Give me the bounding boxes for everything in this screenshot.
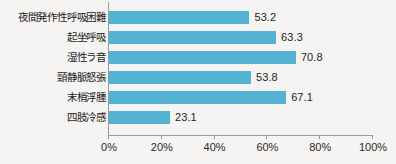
x-axis-tick-label: 40%: [190, 141, 240, 154]
category-label: 夜間発作性呼吸困難: [0, 11, 106, 24]
x-axis-tick: [372, 135, 373, 139]
x-axis-tick-label: 80%: [295, 141, 345, 154]
x-axis-tick: [161, 135, 162, 139]
bar: [109, 31, 276, 44]
category-label: 頸静脈怒張: [0, 71, 106, 84]
y-axis-line: [108, 2, 109, 135]
x-axis-tick-label: 20%: [137, 141, 187, 154]
x-axis-tick-label: 0%: [84, 141, 134, 154]
x-axis-tick-label: 60%: [242, 141, 292, 154]
bar: [109, 51, 296, 64]
x-axis-tick-label: 100%: [348, 141, 396, 154]
x-axis-tick: [108, 135, 109, 139]
x-axis-tick: [266, 135, 267, 139]
bar-value-label: 53.2: [254, 11, 276, 24]
bar-value-label: 63.3: [281, 31, 303, 44]
bar-value-label: 70.8: [301, 51, 323, 64]
x-axis-tick: [319, 135, 320, 139]
category-label: 末梢浮腫: [0, 91, 106, 104]
x-axis-line: [108, 135, 373, 136]
bar: [109, 91, 286, 104]
cropped-caption: [6, 159, 336, 164]
category-label: 起坐呼吸: [0, 31, 106, 44]
x-axis-tick: [214, 135, 215, 139]
bar-value-label: 23.1: [175, 111, 197, 124]
bar: [109, 111, 170, 124]
category-label: 湿性ラ音: [0, 51, 106, 64]
bar-value-label: 67.1: [291, 91, 313, 104]
category-label: 四肢冷感: [0, 111, 106, 124]
bar-value-label: 53.8: [256, 71, 278, 84]
horizontal-bar-chart: 夜間発作性呼吸困難 起坐呼吸 湿性ラ音 頸静脈怒張 末梢浮腫 四肢冷感 53.2…: [0, 0, 396, 164]
bar: [109, 71, 251, 84]
bar: [109, 11, 249, 24]
